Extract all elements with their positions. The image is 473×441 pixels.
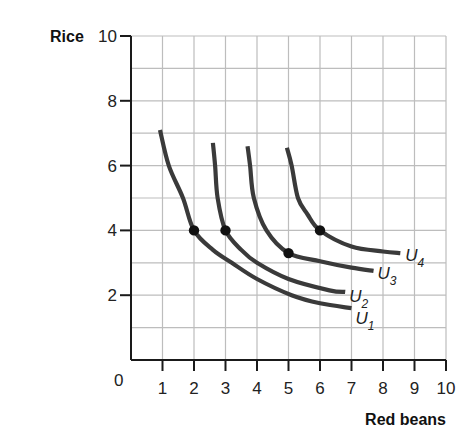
axis-labels: Rice Red beans 0 12345678910246810U1U2U3…: [50, 27, 455, 428]
y-axis-title: Rice: [50, 28, 84, 45]
y-tick-label: 4: [108, 221, 117, 240]
indifference-curve-chart: Rice Red beans 0 12345678910246810U1U2U3…: [0, 0, 473, 441]
marked-point-u4: [315, 225, 325, 235]
x-tick-label: 9: [410, 379, 419, 398]
x-tick-label: 2: [189, 379, 198, 398]
x-tick-label: 4: [252, 379, 261, 398]
curve-u3: [248, 146, 374, 271]
curve-label-u1: U1: [356, 309, 375, 333]
y-tick-label: 2: [108, 286, 117, 305]
grid-lines: [131, 36, 446, 360]
indifference-curves: [160, 130, 400, 308]
y-tick-label: 6: [108, 157, 117, 176]
x-tick-label: 8: [378, 379, 387, 398]
x-tick-label: 1: [158, 379, 167, 398]
marked-point-u3: [283, 248, 293, 258]
x-tick-label: 7: [347, 379, 356, 398]
axes: [120, 36, 446, 371]
origin-label: 0: [114, 371, 123, 390]
x-tick-label: 3: [221, 379, 230, 398]
marked-point-u2: [220, 225, 230, 235]
x-tick-label: 6: [315, 379, 324, 398]
x-tick-label: 10: [437, 379, 456, 398]
x-axis-title: Red beans: [365, 411, 446, 428]
y-tick-label: 8: [108, 92, 117, 111]
curve-label-u3: U3: [378, 264, 397, 288]
y-tick-label: 10: [98, 27, 117, 46]
marked-point-u1: [189, 225, 199, 235]
curve-u1: [160, 130, 352, 308]
x-tick-label: 5: [284, 379, 293, 398]
